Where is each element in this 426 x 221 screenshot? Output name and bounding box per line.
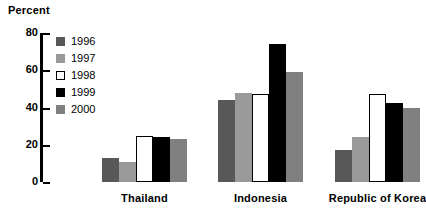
bar-group-indonesia: Indonesia	[218, 33, 303, 182]
y-axis-tick-label: 40	[12, 101, 38, 113]
bar-republic-of-korea-1999	[386, 103, 403, 182]
legend-item-label: 1999	[71, 87, 95, 98]
y-axis-title: Percent	[8, 4, 50, 16]
bar-thailand-1998	[136, 136, 153, 182]
x-axis-category-label: Thailand	[121, 192, 168, 204]
legend-item-1999[interactable]: 1999	[56, 84, 126, 101]
legend-swatch-icon	[56, 105, 65, 114]
bar-thailand-1999	[153, 137, 170, 182]
x-axis-category-label: Indonesia	[234, 192, 287, 204]
legend-item-label: 1996	[71, 36, 95, 47]
legend-item-label: 1998	[71, 70, 95, 81]
legend-item-label: 1997	[71, 53, 95, 64]
bar-republic-of-korea-1997	[352, 137, 369, 182]
bar-thailand-1996	[102, 158, 119, 182]
bar-republic-of-korea-1996	[335, 150, 352, 182]
bar-indonesia-1997	[235, 93, 252, 182]
bar-thailand-1997	[119, 162, 136, 182]
bar-indonesia-1999	[269, 44, 286, 182]
bar-group-republic-of-korea: Republic of Korea	[335, 33, 420, 182]
bar-indonesia-2000	[286, 72, 303, 182]
y-axis-tick-label: 60	[12, 63, 38, 75]
legend-item-1998[interactable]: 1998	[56, 67, 126, 84]
legend-swatch-icon	[56, 88, 65, 97]
bar-indonesia-1998	[252, 94, 269, 182]
y-axis-tick-label: 80	[12, 26, 38, 38]
bar-republic-of-korea-2000	[403, 108, 420, 182]
legend-item-2000[interactable]: 2000	[56, 101, 126, 118]
bar-indonesia-1996	[218, 100, 235, 182]
legend-item-1997[interactable]: 1997	[56, 50, 126, 67]
x-axis-category-label: Republic of Korea	[329, 192, 426, 204]
y-axis-tick-label: 0	[12, 175, 38, 187]
chart-legend: 19961997199819992000	[56, 33, 126, 118]
legend-swatch-icon	[56, 54, 65, 63]
legend-swatch-icon	[56, 37, 65, 46]
legend-item-1996[interactable]: 1996	[56, 33, 126, 50]
y-axis-tick-label: 20	[12, 138, 38, 150]
bar-republic-of-korea-1998	[369, 94, 386, 182]
bar-thailand-2000	[170, 139, 187, 182]
legend-item-label: 2000	[71, 104, 95, 115]
legend-swatch-icon	[56, 71, 65, 80]
